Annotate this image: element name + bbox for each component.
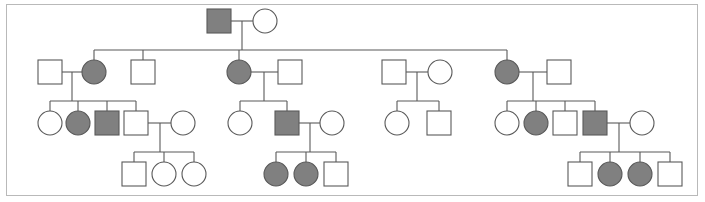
individual-female-unaffected[interactable] (171, 111, 195, 135)
individual-female-unaffected[interactable] (385, 111, 409, 135)
female-circle-symbol[interactable] (171, 111, 195, 135)
individual-male-unaffected[interactable] (427, 111, 451, 135)
male-square-symbol[interactable] (324, 162, 348, 186)
male-square-symbol[interactable] (131, 60, 155, 84)
female-circle-symbol[interactable] (628, 162, 652, 186)
female-circle-symbol[interactable] (38, 111, 62, 135)
female-circle-symbol[interactable] (598, 162, 622, 186)
individual-male-unaffected[interactable] (131, 60, 155, 84)
individual-female-affected[interactable] (264, 162, 288, 186)
female-circle-symbol[interactable] (66, 111, 90, 135)
individual-female-unaffected[interactable] (38, 111, 62, 135)
individual-male-affected[interactable] (275, 111, 299, 135)
male-square-symbol[interactable] (278, 60, 302, 84)
female-circle-symbol[interactable] (495, 111, 519, 135)
individual-female-unaffected[interactable] (182, 162, 206, 186)
individual-female-unaffected[interactable] (253, 9, 277, 33)
individual-male-unaffected[interactable] (278, 60, 302, 84)
individual-male-unaffected[interactable] (122, 162, 146, 186)
individual-female-unaffected[interactable] (228, 111, 252, 135)
individual-female-affected[interactable] (628, 162, 652, 186)
individual-male-unaffected[interactable] (38, 60, 62, 84)
individual-male-unaffected[interactable] (382, 60, 406, 84)
female-circle-symbol[interactable] (385, 111, 409, 135)
male-square-symbol[interactable] (547, 60, 571, 84)
individual-female-affected[interactable] (598, 162, 622, 186)
male-square-symbol[interactable] (275, 111, 299, 135)
male-square-symbol[interactable] (658, 162, 682, 186)
individual-female-unaffected[interactable] (630, 111, 654, 135)
female-circle-symbol[interactable] (228, 111, 252, 135)
connector-lines-layer (50, 21, 670, 162)
individual-male-affected[interactable] (95, 111, 119, 135)
male-square-symbol[interactable] (124, 111, 148, 135)
female-circle-symbol[interactable] (253, 9, 277, 33)
individual-female-unaffected[interactable] (320, 111, 344, 135)
male-square-symbol[interactable] (122, 162, 146, 186)
pedigree-chart-page (0, 0, 705, 202)
individual-male-unaffected[interactable] (553, 111, 577, 135)
male-square-symbol[interactable] (553, 111, 577, 135)
individual-male-affected[interactable] (583, 111, 607, 135)
male-square-symbol[interactable] (95, 111, 119, 135)
individual-male-unaffected[interactable] (547, 60, 571, 84)
male-square-symbol[interactable] (427, 111, 451, 135)
individual-female-unaffected[interactable] (495, 111, 519, 135)
individual-male-affected[interactable] (207, 9, 231, 33)
female-circle-symbol[interactable] (82, 60, 106, 84)
female-circle-symbol[interactable] (630, 111, 654, 135)
female-circle-symbol[interactable] (227, 60, 251, 84)
female-circle-symbol[interactable] (495, 60, 519, 84)
female-circle-symbol[interactable] (524, 111, 548, 135)
individual-female-affected[interactable] (495, 60, 519, 84)
female-circle-symbol[interactable] (182, 162, 206, 186)
individual-male-unaffected[interactable] (568, 162, 592, 186)
individual-female-unaffected[interactable] (428, 60, 452, 84)
pedigree-diagram (0, 0, 705, 202)
male-square-symbol[interactable] (207, 9, 231, 33)
individual-male-unaffected[interactable] (124, 111, 148, 135)
male-square-symbol[interactable] (382, 60, 406, 84)
male-square-symbol[interactable] (583, 111, 607, 135)
female-circle-symbol[interactable] (320, 111, 344, 135)
individual-female-affected[interactable] (294, 162, 318, 186)
female-circle-symbol[interactable] (264, 162, 288, 186)
female-circle-symbol[interactable] (294, 162, 318, 186)
female-circle-symbol[interactable] (428, 60, 452, 84)
female-circle-symbol[interactable] (152, 162, 176, 186)
individual-female-affected[interactable] (227, 60, 251, 84)
individual-male-unaffected[interactable] (324, 162, 348, 186)
male-square-symbol[interactable] (568, 162, 592, 186)
individual-symbols-layer (38, 9, 682, 186)
male-square-symbol[interactable] (38, 60, 62, 84)
individual-female-affected[interactable] (66, 111, 90, 135)
individual-female-affected[interactable] (82, 60, 106, 84)
individual-female-affected[interactable] (524, 111, 548, 135)
individual-male-unaffected[interactable] (658, 162, 682, 186)
individual-female-unaffected[interactable] (152, 162, 176, 186)
